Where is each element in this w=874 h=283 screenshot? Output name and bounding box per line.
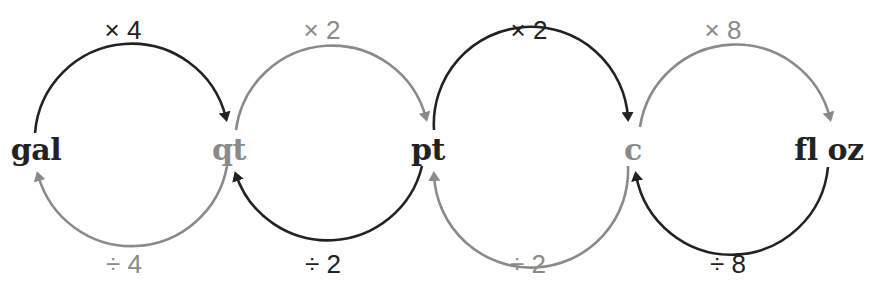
multiply-label-c-floz: × 8 [705, 15, 742, 46]
arc-floz-to-c [636, 167, 828, 255]
unit-fl-oz: fl oz [794, 132, 863, 167]
arc-qt-to-gal [38, 166, 227, 246]
arc-pt-to-qt [236, 166, 422, 240]
unit-pt: pt [411, 132, 445, 167]
divide-label-qt-gal: ÷ 4 [106, 249, 142, 280]
unit-c: c [624, 132, 642, 167]
unit-qt: qt [212, 132, 246, 167]
multiply-label-pt-c: × 2 [511, 15, 548, 46]
multiply-label-qt-pt: × 2 [304, 15, 341, 46]
arc-c-to-floz [640, 45, 830, 127]
arc-gal-to-qt [35, 44, 226, 133]
divide-label-pt-qt: ÷ 2 [305, 249, 341, 280]
divide-label-c-pt: ÷ 2 [510, 249, 546, 280]
unit-gal: gal [11, 132, 61, 167]
multiply-label-gal-qt: × 4 [105, 15, 142, 46]
divide-label-floz-c: ÷ 8 [710, 249, 746, 280]
arc-qt-to-pt [236, 46, 426, 130]
